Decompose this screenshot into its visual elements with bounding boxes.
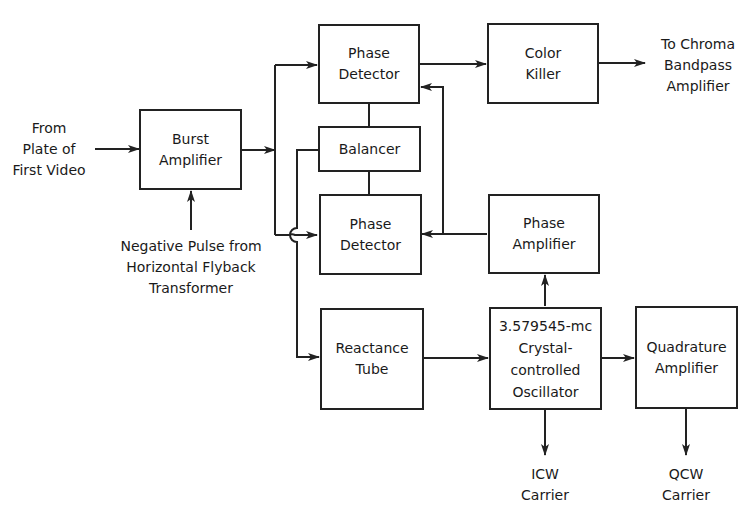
balancer-to-reactance-arrow <box>290 150 319 357</box>
balancer-line1: Balancer <box>339 139 401 160</box>
phase-detector-bottom-line1: Phase <box>350 214 392 235</box>
pulse-source-line1: Negative Pulse from <box>96 236 286 257</box>
phase-detector-bottom-block: Phase Detector <box>319 194 422 275</box>
icw-output-line2: Carrier <box>505 485 585 506</box>
reactance-tube-block: Reactance Tube <box>320 308 424 410</box>
quadrature-amplifier-block: Quadrature Amplifier <box>635 306 738 409</box>
input-source-line1: From <box>4 118 94 139</box>
burst-amplifier-line2: Amplifier <box>159 150 222 171</box>
input-source-line2: Plate of <box>4 139 94 160</box>
pulse-source-line2: Horizontal Flyback <box>96 257 286 278</box>
chroma-output-line3: Amplifier <box>648 76 748 97</box>
color-killer-line2: Killer <box>525 64 560 85</box>
phase-detector-bottom-line2: Detector <box>340 235 401 256</box>
qcw-output-line1: QCW <box>646 464 726 485</box>
crystal-oscillator-block: 3.579545-mc Crystal- controlled Oscillat… <box>489 307 602 410</box>
icw-output-line1: ICW <box>505 464 585 485</box>
burst-amplifier-block: Burst Amplifier <box>139 109 242 190</box>
phase-detector-top-block: Phase Detector <box>318 24 420 104</box>
phase-amplifier-block: Phase Amplifier <box>488 194 600 274</box>
phase-amp-to-pd-top-arrow <box>421 87 443 234</box>
chroma-output-line1: To Chroma <box>648 34 748 55</box>
input-source-label: From Plate of First Video <box>4 118 94 181</box>
chroma-output-line2: Bandpass <box>648 55 748 76</box>
color-killer-line1: Color <box>525 43 562 64</box>
oscillator-line2: Crystal- <box>518 337 572 359</box>
chroma-output-label: To Chroma Bandpass Amplifier <box>648 34 748 97</box>
color-killer-block: Color Killer <box>487 23 599 104</box>
pulse-source-label: Negative Pulse from Horizontal Flyback T… <box>96 236 286 299</box>
qcw-output-line2: Carrier <box>646 485 726 506</box>
reactance-tube-line2: Tube <box>356 359 389 380</box>
burst-amplifier-line1: Burst <box>172 129 209 150</box>
reactance-tube-line1: Reactance <box>335 338 408 359</box>
phase-detector-top-line1: Phase <box>348 43 390 64</box>
phase-detector-top-line2: Detector <box>338 64 399 85</box>
qcw-output-label: QCW Carrier <box>646 464 726 506</box>
phase-amplifier-line1: Phase <box>523 213 565 234</box>
phase-amplifier-line2: Amplifier <box>512 234 575 255</box>
oscillator-line1: 3.579545-mc <box>499 315 592 337</box>
quadrature-amplifier-line2: Amplifier <box>655 358 718 379</box>
balancer-block: Balancer <box>318 126 421 172</box>
icw-output-label: ICW Carrier <box>505 464 585 506</box>
to-phase-detector-bottom-arrow <box>275 234 317 235</box>
oscillator-line4: Oscillator <box>512 381 578 403</box>
input-source-line3: First Video <box>4 160 94 181</box>
oscillator-line3: controlled <box>511 359 581 381</box>
quadrature-amplifier-line1: Quadrature <box>646 337 726 358</box>
pulse-source-line3: Transformer <box>96 278 286 299</box>
